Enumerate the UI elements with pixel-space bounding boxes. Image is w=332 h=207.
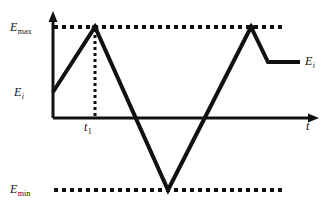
emin-label-subscript: min — [18, 189, 30, 198]
x-axis — [53, 114, 319, 123]
t-axis-label: t — [306, 120, 309, 132]
peak-1-marker — [92, 25, 99, 32]
curve-label-base: E — [305, 54, 312, 68]
energy-curve — [53, 27, 300, 190]
ei-label-base: E — [14, 85, 21, 99]
t1-tick-label: t1 — [84, 121, 91, 133]
t1-label-base: t — [84, 120, 87, 134]
curve-label-subscript: i — [313, 61, 315, 70]
peak-2-marker — [248, 25, 255, 32]
emax-label-base: E — [10, 20, 17, 34]
ei-axis-label: Ei — [14, 86, 24, 98]
t1-label-subscript: 1 — [88, 127, 92, 136]
energy-curve-label: Ei — [305, 55, 315, 67]
emin-label-base: E — [10, 182, 17, 196]
emax-label-subscript: max — [18, 27, 32, 36]
emax-axis-label: Emax — [10, 21, 31, 33]
figure-container: Emax Ei Emin t1 t Ei — [0, 0, 332, 207]
ei-label-subscript: i — [22, 92, 24, 101]
emin-axis-label: Emin — [10, 183, 30, 195]
energy-time-plot — [0, 0, 332, 207]
